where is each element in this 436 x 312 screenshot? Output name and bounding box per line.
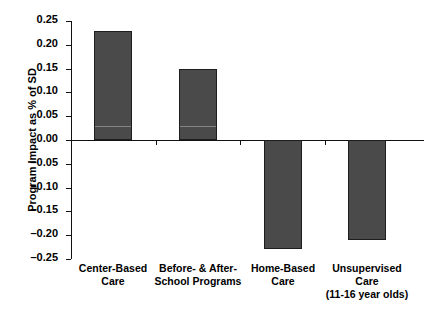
y-tick-label: 0.05: [37, 108, 58, 120]
y-tick-label: 0.10: [37, 84, 58, 96]
scan-artifact-line: [180, 126, 216, 127]
y-tick: 0.05: [66, 116, 71, 117]
y-tick: –0.05: [66, 164, 71, 165]
x-tick: [325, 140, 326, 145]
y-tick-label: –0.05: [30, 156, 58, 168]
y-tick: –0.15: [66, 211, 71, 212]
x-axis-label: Unsupervised Care (11-16 year olds): [312, 262, 422, 301]
y-tick-label: 0.00: [37, 132, 58, 144]
y-tick-label: –0.15: [30, 203, 58, 215]
x-tick: [240, 140, 241, 145]
y-tick-label: 0.25: [37, 13, 58, 25]
y-tick: –0.10: [66, 188, 71, 189]
y-tick: –0.25: [66, 259, 71, 260]
y-tick: 0.20: [66, 45, 71, 46]
y-tick-label: 0.15: [37, 61, 58, 73]
bar: [348, 140, 386, 240]
x-tick: [156, 140, 157, 145]
y-tick: 0.15: [66, 69, 71, 70]
bar-chart-figure: Program Impact as % of SD 0.250.200.150.…: [0, 0, 436, 312]
y-tick: 0.00: [66, 140, 71, 141]
bar: [179, 69, 217, 140]
y-tick-label: –0.25: [30, 251, 58, 263]
bar: [264, 140, 302, 249]
y-tick: –0.20: [66, 235, 71, 236]
bar: [94, 31, 132, 140]
plot-area: 0.250.200.150.100.050.00–0.05–0.10–0.15–…: [71, 21, 424, 259]
y-tick-label: –0.10: [30, 180, 58, 192]
y-tick-label: –0.20: [30, 227, 58, 239]
y-tick: 0.25: [66, 21, 71, 22]
y-tick-label: 0.20: [37, 37, 58, 49]
y-tick: 0.10: [66, 92, 71, 93]
scan-artifact-line: [95, 126, 131, 127]
